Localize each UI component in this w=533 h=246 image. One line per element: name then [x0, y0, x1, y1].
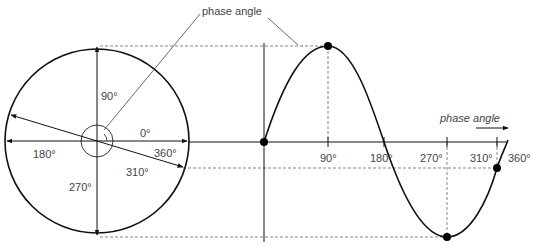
label-0: 0° [140, 127, 151, 139]
small-angle-arc [104, 134, 107, 141]
tick-label-270: 270° [420, 152, 443, 164]
point-310 [493, 164, 501, 172]
phase-angle-leader-left [104, 14, 200, 130]
label-90: 90° [101, 90, 118, 102]
phase-angle-leader-right [268, 18, 298, 45]
label-180: 180° [33, 148, 56, 160]
peak-point [324, 42, 332, 50]
tick-label-180: 180° [370, 152, 393, 164]
arrow-diameter [11, 115, 97, 141]
trough-point [443, 233, 451, 241]
label-270: 270° [69, 181, 92, 193]
label-360: 360° [154, 147, 177, 159]
tick-label-360: 360° [508, 152, 531, 164]
wave-axis-label: phase angle [439, 112, 500, 124]
tick-label-90: 90° [320, 152, 337, 164]
phase-angle-label: phase angle [202, 5, 262, 17]
phase-angle-diagram: phase angle 90° 0° 180° 360° 310° 270° 9… [0, 0, 533, 246]
tick-label-310: 310° [470, 152, 493, 164]
origin-point [260, 138, 268, 146]
label-310: 310° [126, 166, 149, 178]
